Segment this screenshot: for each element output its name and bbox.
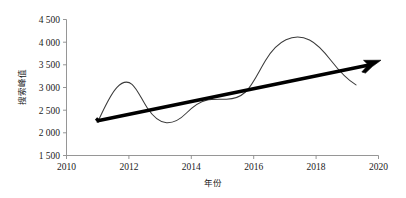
- x-tick-label: 2020: [369, 162, 388, 172]
- y-tick-label: 3 500: [39, 60, 61, 70]
- y-tick-label: 2 000: [39, 128, 61, 138]
- chart-container: 4 500 4 000 3 500 3 000 2 500 2 000 1 50…: [0, 0, 406, 198]
- x-tick-label: 2018: [307, 162, 326, 172]
- search-peak-line-chart: 4 500 4 000 3 500 3 000 2 500 2 000 1 50…: [0, 0, 406, 198]
- x-axis-title: 年份: [204, 178, 222, 188]
- x-tick-label: 2010: [57, 162, 76, 172]
- x-tick-label: 2012: [119, 162, 138, 172]
- x-tick-label: 2016: [244, 162, 263, 172]
- x-tick-label: 2014: [182, 162, 201, 172]
- trend-arrow-tail: [96, 119, 100, 122]
- y-tick-label: 1 500: [39, 151, 61, 161]
- y-axis-title: 搜索峰值: [17, 69, 27, 105]
- y-tick-label: 3 000: [39, 83, 61, 93]
- y-tick-label: 4 000: [39, 38, 61, 48]
- y-tick-label: 4 500: [39, 15, 61, 25]
- y-tick-label: 2 500: [39, 106, 61, 116]
